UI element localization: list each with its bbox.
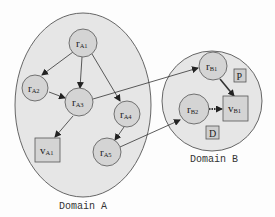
domain-a-label: Domain A (59, 201, 107, 212)
node-d: D (206, 126, 219, 139)
domain-b-label: Domain B (190, 154, 238, 165)
node-ra3: rA3 (65, 88, 93, 116)
node-ra2: rA2 (22, 75, 48, 101)
node-ra4: rA4 (114, 101, 140, 127)
node-rb2: rB2 (179, 94, 209, 124)
node-vb1: vB1 (223, 96, 248, 121)
svg-text:D: D (209, 128, 216, 139)
node-p: P (234, 69, 246, 82)
node-ra1: rA1 (69, 29, 97, 57)
diagram-canvas: rA1 rA2 rA3 rA4 rA5 vA1 rB1 rB2 vB1 P D (0, 0, 275, 217)
node-ra5: rA5 (93, 138, 121, 166)
node-va1: vA1 (35, 138, 60, 162)
node-rb1: rB1 (199, 52, 227, 80)
svg-text:P: P (237, 71, 243, 82)
